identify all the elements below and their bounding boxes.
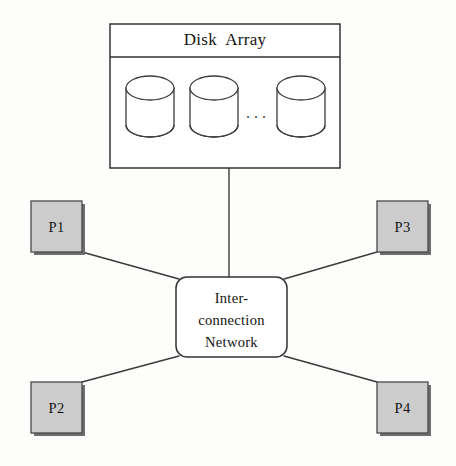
link-p3-to-network (284, 252, 377, 279)
network-label: Inter- connection Network (176, 287, 287, 353)
link-p1-to-network (82, 252, 179, 279)
processor-label-p4: P4 (377, 399, 428, 417)
disk-cylinder-2 (190, 76, 238, 137)
link-p2-to-network (82, 356, 179, 382)
disk-array-title: Disk Array (110, 28, 340, 52)
disk-cylinder-3 (277, 76, 325, 137)
processor-label-p1: P1 (31, 218, 82, 236)
disk-cylinder-1 (126, 76, 174, 137)
figure-canvas: Disk Array ... Inter- connection Network… (0, 0, 456, 466)
disk-cylinders (126, 76, 325, 137)
processor-label-p3: P3 (377, 218, 428, 236)
link-p4-to-network (284, 356, 377, 382)
disk-array-ellipsis: ... (246, 104, 276, 122)
processor-label-p2: P2 (31, 399, 82, 417)
